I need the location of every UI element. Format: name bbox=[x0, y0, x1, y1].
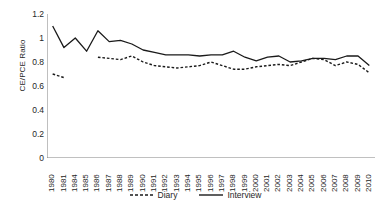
chart-svg bbox=[47, 14, 375, 158]
chart-container: CE/PCE Ratio 00.20.40.60.811.2 198019811… bbox=[0, 0, 391, 204]
y-axis-tick-label: 0.4 bbox=[22, 106, 44, 115]
legend-label: Interview bbox=[227, 190, 261, 200]
series-line-diary bbox=[53, 74, 64, 78]
y-axis-tick-label: 1 bbox=[22, 34, 44, 43]
x-axis-tick-labels: 1980198119841985198619871988198919901991… bbox=[47, 158, 375, 192]
y-axis-tick-label: 0.2 bbox=[22, 130, 44, 139]
legend-item-interview[interactable]: Interview bbox=[199, 190, 261, 200]
chart-legend: DiaryInterview bbox=[0, 188, 391, 202]
legend-swatch-diary-icon bbox=[130, 192, 154, 198]
y-axis-tick-label: 0.8 bbox=[22, 58, 44, 67]
y-axis-tick-label: 0.6 bbox=[22, 82, 44, 91]
y-axis-tick-labels: 00.20.40.60.811.2 bbox=[22, 0, 44, 204]
plot-area bbox=[47, 14, 375, 158]
legend-item-diary[interactable]: Diary bbox=[130, 190, 178, 200]
legend-label: Diary bbox=[158, 190, 178, 200]
y-axis-tick-label: 1.2 bbox=[22, 10, 44, 19]
y-axis-tick-label: 0 bbox=[22, 154, 44, 163]
legend-swatch-interview-icon bbox=[199, 192, 223, 198]
